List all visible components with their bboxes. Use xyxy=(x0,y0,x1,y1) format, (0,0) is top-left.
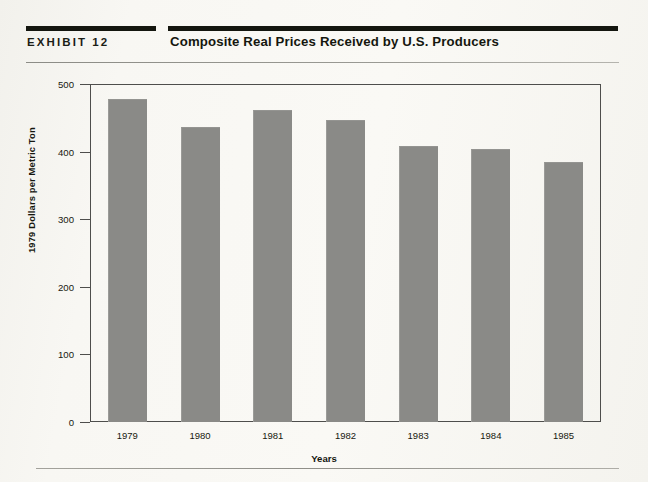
y-axis-title: 1979 Dollars per Metric Ton xyxy=(26,127,37,253)
x-axis-tick-label: 1985 xyxy=(553,430,574,441)
x-axis-tick-label: 1984 xyxy=(480,430,501,441)
y-axis-tick-label: 0 xyxy=(69,417,74,428)
bar xyxy=(108,99,147,422)
bar xyxy=(471,149,510,422)
y-axis-tick xyxy=(80,219,90,220)
y-axis-tick xyxy=(80,84,90,85)
y-axis-tick-label: 200 xyxy=(58,281,74,292)
y-axis-tick xyxy=(80,354,90,355)
y-axis-tick-label: 400 xyxy=(58,146,74,157)
x-axis-tick-label: 1983 xyxy=(408,430,429,441)
y-axis-tick-label: 500 xyxy=(58,79,74,90)
bar-chart: 1979 Dollars per Metric Ton 010020030040… xyxy=(0,0,648,482)
bar xyxy=(253,110,292,422)
y-axis-tick xyxy=(80,422,90,423)
x-axis-title: Years xyxy=(0,453,648,464)
x-axis-tick-label: 1981 xyxy=(262,430,283,441)
bar-series xyxy=(91,84,600,422)
y-axis-tick xyxy=(80,152,90,153)
y-axis-tick xyxy=(80,287,90,288)
x-axis-tick-label: 1982 xyxy=(335,430,356,441)
bar xyxy=(326,120,365,422)
bar xyxy=(399,146,438,422)
bar xyxy=(181,127,220,422)
x-axis-tick-label: 1980 xyxy=(189,430,210,441)
y-axis-tick-label: 100 xyxy=(58,349,74,360)
x-axis-tick-label: 1979 xyxy=(117,430,138,441)
footer-hairline xyxy=(36,468,619,469)
y-axis-tick-label: 300 xyxy=(58,214,74,225)
bar xyxy=(544,162,583,422)
